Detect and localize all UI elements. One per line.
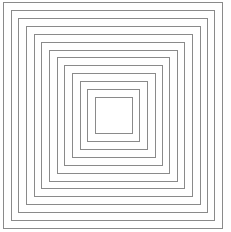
square-ring-13 [95, 97, 133, 134]
concentric-squares-diagram [0, 0, 231, 232]
